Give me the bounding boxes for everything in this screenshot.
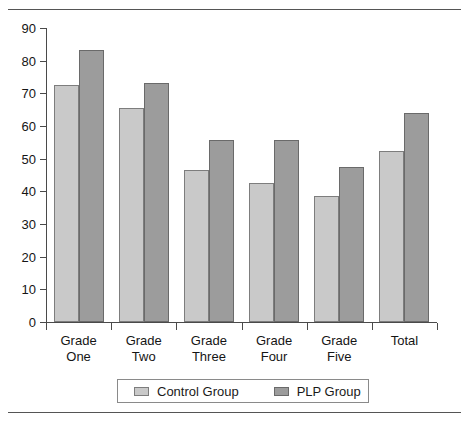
bar-grade-two-plp-group [144, 83, 169, 322]
bar-grade-one-control-group [54, 85, 79, 322]
category-label-line1: Grade [126, 333, 162, 348]
y-tick-mark [40, 61, 46, 62]
y-tick-label: 90 [0, 22, 36, 35]
bar-total-plp-group [404, 113, 429, 322]
bar-grade-four-control-group [249, 183, 274, 322]
y-tick-mark [40, 257, 46, 258]
bar-grade-one-plp-group [79, 50, 104, 322]
y-tick-label: 60 [0, 120, 36, 133]
y-tick-mark [40, 224, 46, 225]
x-category-label: Total [365, 333, 443, 349]
x-tick-mark [437, 323, 438, 330]
category-label-line1: Grade [191, 333, 227, 348]
y-tick-mark [40, 93, 46, 94]
y-tick-mark [40, 28, 46, 29]
y-axis-line [46, 28, 47, 323]
bar-grade-five-control-group [314, 196, 339, 322]
x-tick-mark [372, 323, 373, 330]
legend-swatch-icon [134, 387, 149, 396]
legend-entry: PLP Group [274, 385, 361, 398]
y-tick-label: 0 [0, 316, 36, 329]
legend-entry: Control Group [134, 385, 239, 398]
y-tick-label: 50 [0, 153, 36, 166]
bar-grade-three-control-group [184, 170, 209, 322]
y-tick-label: 70 [0, 87, 36, 100]
x-tick-mark [111, 323, 112, 330]
y-tick-label: 30 [0, 218, 36, 231]
y-tick-label: 40 [0, 185, 36, 198]
chart-legend: Control GroupPLP Group [117, 379, 369, 403]
y-tick-mark [40, 289, 46, 290]
bar-chart-plot-area: 0102030405060708090 GradeOneGradeTwoGrad… [0, 0, 469, 423]
figure-container: 0102030405060708090 GradeOneGradeTwoGrad… [0, 0, 469, 423]
category-label-line1: Grade [321, 333, 357, 348]
y-tick-mark [40, 159, 46, 160]
bar-grade-five-plp-group [339, 167, 364, 322]
category-label-line1: Grade [61, 333, 97, 348]
x-tick-mark [176, 323, 177, 330]
y-tick-mark [40, 191, 46, 192]
bar-total-control-group [379, 151, 404, 322]
bar-grade-two-control-group [119, 108, 144, 322]
y-tick-mark [40, 126, 46, 127]
category-label-line1: Grade [256, 333, 292, 348]
x-tick-mark [46, 323, 47, 330]
legend-label: PLP Group [297, 385, 361, 398]
x-tick-mark [307, 323, 308, 330]
y-tick-label: 20 [0, 251, 36, 264]
category-label-line2: Five [300, 349, 378, 365]
x-tick-mark [242, 323, 243, 330]
bar-grade-three-plp-group [209, 140, 234, 322]
y-tick-label: 10 [0, 283, 36, 296]
bar-grade-four-plp-group [274, 140, 299, 322]
legend-label: Control Group [157, 385, 239, 398]
y-tick-label: 80 [0, 55, 36, 68]
legend-swatch-icon [274, 387, 289, 396]
category-label-line1: Total [391, 333, 418, 348]
